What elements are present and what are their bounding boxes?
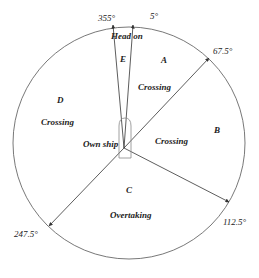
sector-c-letter: C: [126, 185, 133, 195]
sector-d-name: Crossing: [41, 117, 75, 127]
sector-b-letter: B: [213, 125, 220, 135]
boundary-67-5: [124, 58, 209, 148]
sector-d-letter: D: [56, 95, 64, 105]
boundary-355: [113, 25, 124, 148]
sector-b-name: Crossing: [155, 136, 189, 146]
sector-a-letter: A: [160, 55, 167, 65]
boundary-5: [124, 25, 133, 148]
boundary-112-5: [124, 148, 229, 202]
sector-e-letter: E: [119, 54, 126, 64]
angle-247-5-label: 247.5°: [14, 229, 38, 239]
angle-355-label: 355°: [97, 13, 116, 23]
sector-c-name: Overtaking: [110, 210, 152, 220]
angle-67-5-label: 67.5°: [213, 46, 233, 56]
encounter-diagram: 355° 5° 67.5° 112.5° 247.5° Head on E A …: [0, 0, 259, 278]
angle-112-5-label: 112.5°: [223, 217, 247, 227]
sector-e-name: Head on: [110, 31, 143, 41]
angle-5-label: 5°: [150, 11, 159, 21]
sector-a-name: Crossing: [138, 82, 172, 92]
own-ship-label: Own ship: [83, 139, 119, 149]
